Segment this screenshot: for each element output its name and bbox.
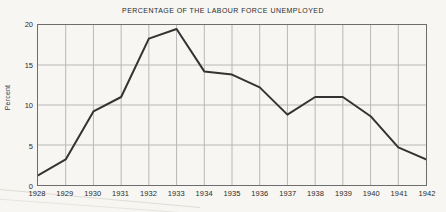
y-axis-tick-labels: 05101520 [5,24,33,186]
y-tick-label: 15 [7,60,33,69]
y-tick-label: 5 [7,141,33,150]
x-axis-tick-labels: 1928192919301931193219331934193519361937… [37,189,427,203]
data-line-series [38,25,426,185]
chart-page: PERCENTAGE OF THE LABOUR FORCE UNEMPLOYE… [0,0,446,212]
y-tick-label: 10 [7,101,33,110]
data-line [38,29,426,175]
chart-title: PERCENTAGE OF THE LABOUR FORCE UNEMPLOYE… [0,7,446,14]
plot-area [37,24,427,186]
x-tick-label: 1942 [407,189,446,198]
y-tick-label: 20 [7,20,33,29]
